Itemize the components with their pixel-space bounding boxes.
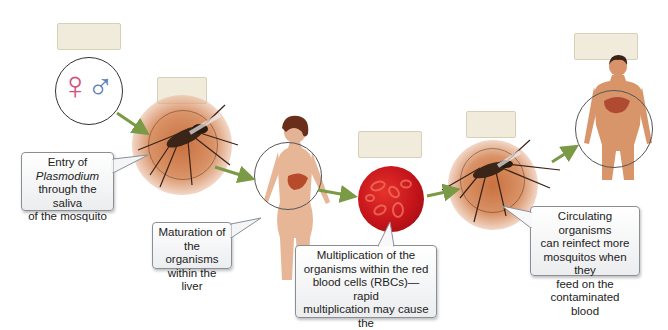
callout-reinfect-line5: contaminated blood (535, 291, 635, 318)
callout-rbc-line1: Multiplication of the (300, 249, 432, 263)
callout-entry-line3: through the saliva (26, 183, 109, 210)
callout-reinfect-line2: can reinfect more (535, 237, 635, 251)
callout-entry-line4: of the mosquito (26, 210, 109, 224)
callout-reinfect: Circulating organisms can reinfect more … (530, 206, 640, 276)
callout-reinfect-pointer (500, 206, 540, 236)
callout-liver-line1: Maturation of (157, 226, 227, 240)
callout-liver-pointer (231, 218, 271, 248)
callout-rbc: Multiplication of the organisms within t… (295, 245, 437, 318)
callout-reinfect-line3: mosquitos when they (535, 251, 635, 278)
callout-entry-line2: Plasmodium (26, 170, 109, 184)
callout-rbc-line3: blood cells (RBCs)—rapid (300, 276, 432, 303)
callout-reinfect-line1: Circulating organisms (535, 210, 635, 237)
callout-liver-line2: the organisms (157, 240, 227, 267)
callout-rbc-line4: multiplication may cause the (300, 303, 432, 330)
callout-rbc-line2: organisms within the red (300, 263, 432, 277)
callout-reinfect-line4: feed on the (535, 278, 635, 292)
callout-entry: Entry of Plasmodium through the saliva o… (21, 152, 114, 211)
callout-entry-line1: Entry of (26, 156, 109, 170)
callout-liver: Maturation of the organisms within the l… (152, 222, 232, 269)
callout-entry-pointer (113, 155, 153, 185)
callout-liver-line3: within the liver (157, 267, 227, 294)
callout-rbc-pointer (378, 222, 408, 252)
